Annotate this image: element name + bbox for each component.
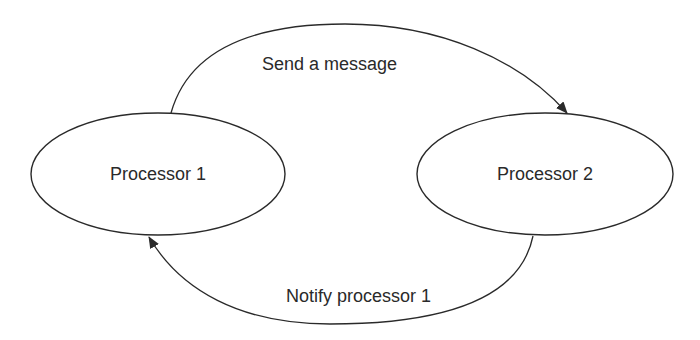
edge-label-notify-processor: Notify processor 1 [286,286,431,306]
edge-label-send-message: Send a message [262,54,397,74]
node-processor-1: Processor 1 [31,113,285,235]
diagram-canvas: Send a message Notify processor 1 Proces… [0,0,700,340]
node-label-processor-2: Processor 2 [497,164,593,184]
edge-notify-processor: Notify processor 1 [149,236,533,324]
node-processor-2: Processor 2 [417,113,673,235]
node-label-processor-1: Processor 1 [110,164,206,184]
edge-send-message: Send a message [171,24,567,113]
arrow-notify-processor [149,236,533,324]
